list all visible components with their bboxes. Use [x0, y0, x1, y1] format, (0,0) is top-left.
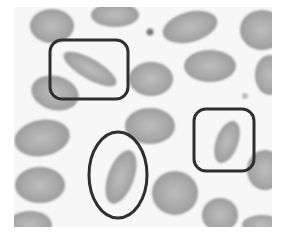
cell [202, 198, 238, 232]
micrograph [0, 0, 281, 241]
cell [152, 171, 198, 215]
cell [129, 62, 173, 96]
platelet [242, 93, 248, 99]
platelet [147, 29, 154, 36]
cell [8, 211, 52, 239]
cell [242, 215, 281, 235]
cell [15, 167, 65, 203]
cell [184, 50, 236, 82]
cell [91, 3, 139, 27]
cell [30, 9, 74, 43]
